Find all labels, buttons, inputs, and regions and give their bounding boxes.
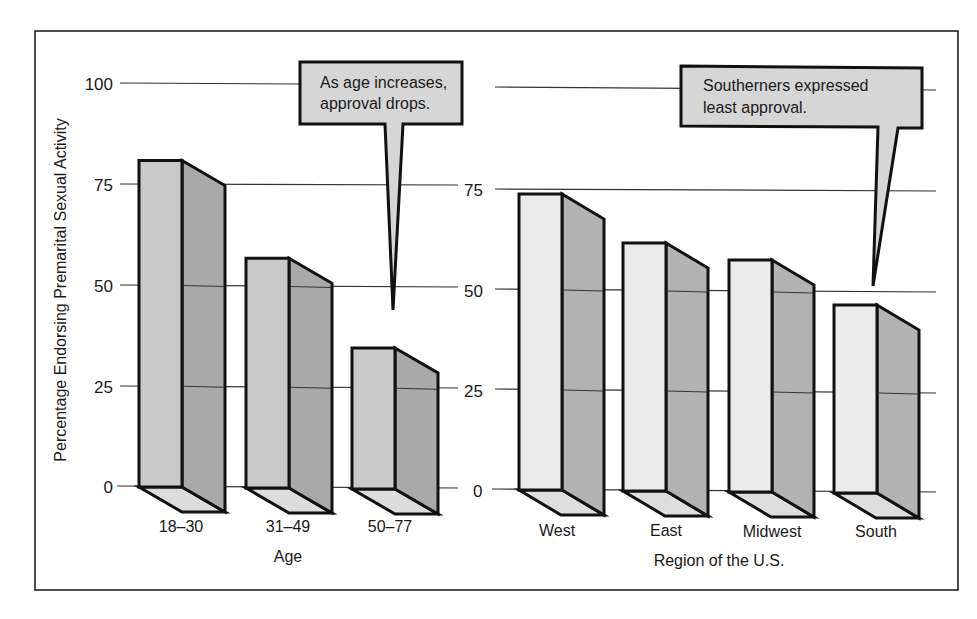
x-axis-label-region: Region of the U.S. xyxy=(654,552,785,569)
chart-canvas: Percentage Endorsing Premarital Sexual A… xyxy=(0,0,977,619)
annotation-age-line2: approval drops. xyxy=(320,95,430,112)
region-y-ticks: 75 50 25 0 xyxy=(464,181,483,501)
tick-25: 25 xyxy=(464,382,483,401)
tick-0: 0 xyxy=(473,482,482,501)
category-west: West xyxy=(539,522,576,539)
bar-front xyxy=(519,194,562,490)
tick-25: 25 xyxy=(94,378,113,397)
annotation-age-line1: As age increases, xyxy=(320,74,447,91)
category-south: South xyxy=(855,523,897,540)
bar-south xyxy=(834,305,919,518)
category-50-77: 50–77 xyxy=(368,518,413,535)
bar-side xyxy=(877,305,919,518)
bar-front xyxy=(246,258,289,488)
bar-front xyxy=(352,348,395,489)
category-31-49: 31–49 xyxy=(266,518,311,535)
bar-50-77 xyxy=(352,348,438,514)
bar-front xyxy=(139,161,182,487)
bar-west xyxy=(519,194,604,515)
bar-front xyxy=(729,260,772,492)
annotation-region-line1: Southerners expressed xyxy=(703,77,868,94)
category-18-30: 18–30 xyxy=(159,518,204,535)
annotation-region-line2: least approval. xyxy=(703,99,807,116)
bar-side xyxy=(395,348,438,514)
annotation-region: Southerners expressed least approval. xyxy=(681,66,922,286)
annotation-age: As age increases, approval drops. xyxy=(300,62,462,310)
bar-side xyxy=(772,260,814,517)
x-axis-label-age: Age xyxy=(274,548,303,565)
age-categories: 18–30 31–49 50–77 xyxy=(159,518,413,535)
category-midwest: Midwest xyxy=(743,523,802,540)
bar-midwest xyxy=(729,260,814,517)
bar-side xyxy=(182,161,225,512)
tick-50: 50 xyxy=(464,282,483,301)
bar-side xyxy=(562,194,604,515)
bar-31-49 xyxy=(246,258,332,513)
tick-100: 100 xyxy=(85,75,113,94)
category-east: East xyxy=(650,522,683,539)
region-categories: West East Midwest South xyxy=(539,522,897,540)
age-y-ticks: 100 75 50 25 0 xyxy=(85,75,113,497)
bar-front xyxy=(834,305,877,493)
bar-front xyxy=(623,243,666,491)
tick-75: 75 xyxy=(464,181,483,200)
bar-side xyxy=(289,258,332,513)
bar-east xyxy=(623,243,708,516)
region-bars xyxy=(519,194,919,518)
tick-50: 50 xyxy=(94,277,113,296)
bar-18-30 xyxy=(139,161,225,512)
bar-side xyxy=(666,243,708,516)
tick-0: 0 xyxy=(104,478,113,497)
tick-75: 75 xyxy=(94,176,113,195)
y-axis-label: Percentage Endorsing Premarital Sexual A… xyxy=(52,118,69,461)
